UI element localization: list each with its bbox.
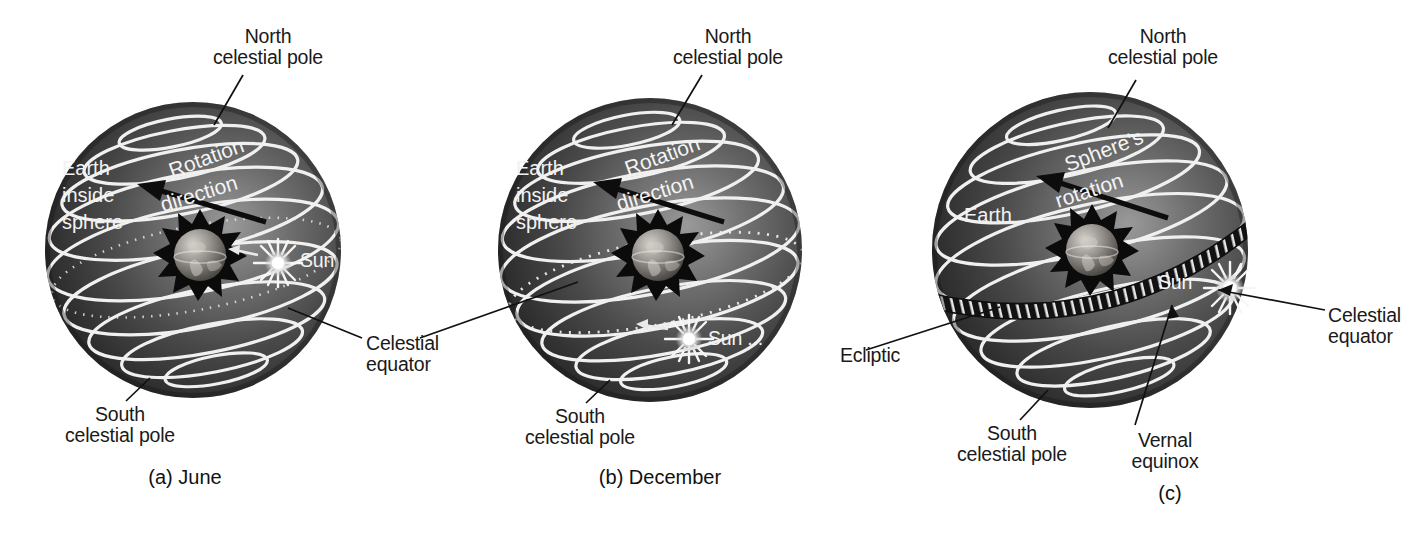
panel-b-graphic: Rotation direction Earth inside sphere <box>450 0 920 540</box>
panel-a: Rotation direction Earth inside sphere <box>0 0 470 540</box>
south-pole-line2: celestial pole <box>65 425 175 446</box>
earth-inside-line3: sphere <box>62 211 123 233</box>
celestial-equator-line2: equator <box>1328 326 1401 347</box>
south-pole-line1: South <box>525 406 635 427</box>
earth-inside-line3: sphere <box>516 211 577 233</box>
north-pole-line1: North <box>213 26 323 47</box>
celestial-equator-line2: equator <box>366 354 439 375</box>
north-pole-line2: celestial pole <box>673 47 783 68</box>
south-pole-line2: celestial pole <box>525 427 635 448</box>
panel-a-graphic: Rotation direction Earth inside sphere <box>0 0 470 540</box>
north-pole-label-a: North celestial pole <box>213 26 323 68</box>
earth-inside-line1: Earth <box>516 157 564 179</box>
south-pole-line1: South <box>957 423 1067 444</box>
south-pole-label-b: South celestial pole <box>525 406 635 448</box>
celestial-equator-line1: Celestial <box>366 333 439 354</box>
sun-icon-a <box>254 239 302 287</box>
earth-inside-line2: inside <box>516 184 568 206</box>
earth-inside-line2: inside <box>62 184 114 206</box>
sun-label-b: Sun ... <box>708 328 763 349</box>
caption-a: (a) June <box>148 466 221 489</box>
sun-label-c: Sun <box>1158 272 1192 293</box>
south-pole-line2: celestial pole <box>957 444 1067 465</box>
sun-icon-b <box>665 315 713 363</box>
north-pole-label-b: North celestial pole <box>673 26 783 68</box>
earth-inside-line1: Earth <box>62 157 110 179</box>
south-pole-line1: South <box>65 404 175 425</box>
south-pole-label-a: South celestial pole <box>65 404 175 446</box>
north-pole-line2: celestial pole <box>213 47 323 68</box>
north-pole-line1: North <box>673 26 783 47</box>
vernal-equinox-line1: Vernal <box>1132 430 1199 451</box>
ecliptic-label-c: Ecliptic <box>840 345 900 366</box>
north-pole-line1: North <box>1108 26 1218 47</box>
north-pole-label-c: North celestial pole <box>1108 26 1218 68</box>
celestial-equator-label-c: Celestial equator <box>1328 305 1401 347</box>
sun-label-a: Sun <box>300 250 334 271</box>
celestial-equator-label-a: Celestial equator <box>366 333 439 375</box>
panel-b: Rotation direction Earth inside sphere <box>450 0 920 540</box>
celestial-equator-line1: Celestial <box>1328 305 1401 326</box>
caption-c: (c) <box>1158 482 1181 505</box>
vernal-equinox-label-c: Vernal equinox <box>1132 430 1199 472</box>
caption-b: (b) December <box>599 466 721 489</box>
vernal-equinox-line2: equinox <box>1132 451 1199 472</box>
north-pole-line2: celestial pole <box>1108 47 1218 68</box>
south-pole-label-c: South celestial pole <box>957 423 1067 465</box>
earth-label-c: Earth <box>964 204 1012 226</box>
panel-c: Sphere's rotation Earth <box>900 0 1390 540</box>
